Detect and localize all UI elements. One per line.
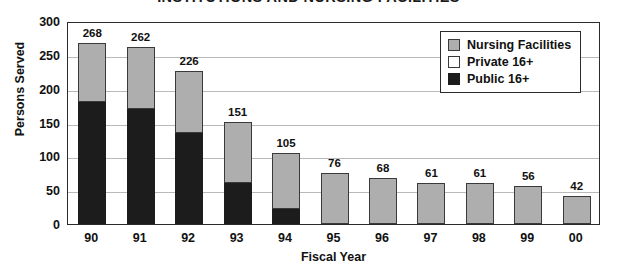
bar-value-label: 151 xyxy=(228,106,247,118)
legend-label: Private 16+ xyxy=(467,55,533,69)
bar-segment-nursing[interactable] xyxy=(514,186,542,224)
x-tick-label: 00 xyxy=(569,231,583,245)
legend-item[interactable]: Private 16+ xyxy=(448,53,571,70)
x-tick-label: 92 xyxy=(181,231,195,245)
chart-legend: Nursing FacilitiesPrivate 16+Public 16+ xyxy=(440,31,581,93)
legend-item[interactable]: Nursing Facilities xyxy=(448,36,571,53)
legend-item[interactable]: Public 16+ xyxy=(448,70,571,87)
bar-value-label: 105 xyxy=(276,137,295,149)
bar-segment-nursing[interactable] xyxy=(466,183,494,224)
bar-segment-public[interactable] xyxy=(127,109,155,224)
bar-value-label: 42 xyxy=(570,180,583,192)
chart-figure: INSTITUTIONS AND NURSING FACILITIES Pers… xyxy=(0,0,617,274)
x-tick-label: 94 xyxy=(278,231,292,245)
x-tick-label: 97 xyxy=(423,231,437,245)
bar-segment-nursing[interactable] xyxy=(563,196,591,224)
x-tick-label: 93 xyxy=(230,231,244,245)
y-tick-label: 300 xyxy=(30,15,60,29)
x-axis-title: Fiscal Year xyxy=(67,250,600,264)
y-tick-label: 0 xyxy=(30,218,60,232)
bar-value-label: 61 xyxy=(425,167,438,179)
bar-segment-public[interactable] xyxy=(175,133,203,224)
bar-value-label: 268 xyxy=(83,27,102,39)
bar-segment-nursing[interactable] xyxy=(78,43,106,103)
bar-group[interactable]: 76 xyxy=(321,21,349,224)
bar-value-label: 76 xyxy=(328,157,341,169)
bar-value-label: 68 xyxy=(377,162,390,174)
bar-group[interactable]: 268 xyxy=(78,21,106,224)
x-tick-label: 98 xyxy=(472,231,486,245)
legend-label: Public 16+ xyxy=(467,72,529,86)
bar-segment-nursing[interactable] xyxy=(175,71,203,133)
legend-swatch-icon xyxy=(448,73,460,85)
bar-segment-nursing[interactable] xyxy=(369,178,397,224)
bar-segment-public[interactable] xyxy=(224,183,252,224)
bar-segment-nursing[interactable] xyxy=(417,183,445,224)
bar-value-label: 262 xyxy=(131,31,150,43)
x-tick-label: 96 xyxy=(375,231,389,245)
legend-label: Nursing Facilities xyxy=(467,38,571,52)
x-tick-label: 91 xyxy=(133,231,147,245)
bar-segment-nursing[interactable] xyxy=(272,153,300,209)
bar-segment-public[interactable] xyxy=(272,209,300,224)
bar-segment-public[interactable] xyxy=(78,102,106,224)
x-tick-label: 90 xyxy=(84,231,98,245)
bar-segment-nursing[interactable] xyxy=(224,122,252,184)
bar-group[interactable]: 262 xyxy=(127,21,155,224)
bar-group[interactable]: 68 xyxy=(369,21,397,224)
bar-value-label: 56 xyxy=(522,170,535,182)
y-tick-label: 50 xyxy=(30,184,60,198)
y-tick-label: 250 xyxy=(30,49,60,63)
y-axis-ticks: 050100150200250300 xyxy=(14,0,60,274)
legend-swatch-icon xyxy=(448,39,460,51)
x-tick-label: 95 xyxy=(327,231,341,245)
y-tick-label: 100 xyxy=(30,150,60,164)
x-tick-label: 99 xyxy=(520,231,534,245)
chart-title: INSTITUTIONS AND NURSING FACILITIES xyxy=(0,0,617,2)
bar-value-label: 61 xyxy=(473,167,486,179)
bar-value-label: 226 xyxy=(180,55,199,67)
bar-group[interactable]: 105 xyxy=(272,21,300,224)
bar-segment-nursing[interactable] xyxy=(127,47,155,109)
bar-segment-nursing[interactable] xyxy=(321,173,349,224)
bar-group[interactable]: 151 xyxy=(224,21,252,224)
y-tick-label: 150 xyxy=(30,117,60,131)
legend-swatch-icon xyxy=(448,56,460,68)
y-tick-label: 200 xyxy=(30,83,60,97)
bar-group[interactable]: 226 xyxy=(175,21,203,224)
